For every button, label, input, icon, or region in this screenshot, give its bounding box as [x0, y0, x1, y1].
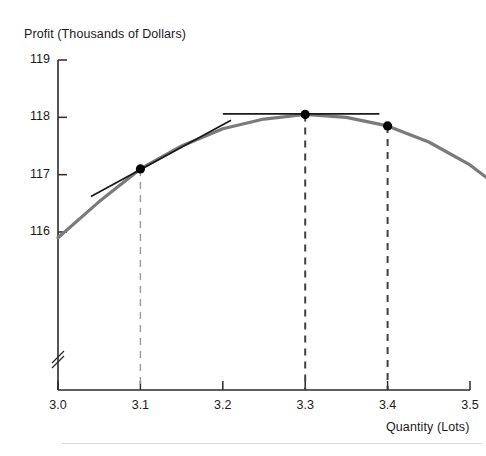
curve-group: [58, 114, 486, 237]
point-3-4: [383, 121, 392, 130]
profit-curve: [58, 114, 486, 237]
y-tick-label: 116: [20, 224, 50, 238]
axes-group: [52, 60, 470, 390]
x-tick-label: 3.1: [120, 398, 160, 412]
tangent-at-3-1: [91, 120, 231, 196]
chart-figure: Profit (Thousands of Dollars) Quantity (…: [0, 0, 486, 456]
x-tick-label: 3.5: [450, 398, 486, 412]
point-3-3: [301, 110, 310, 119]
figure-bottom-rule: [62, 443, 482, 444]
y-tick-marks: [58, 60, 67, 232]
y-tick-label: 119: [20, 52, 50, 66]
x-tick-label: 3.4: [368, 398, 408, 412]
y-tick-label: 118: [20, 109, 50, 123]
axis-break-icon: [52, 351, 64, 368]
droplines-group: [140, 114, 387, 390]
x-tick-label: 3.0: [38, 398, 78, 412]
point-3-1: [136, 164, 145, 173]
x-tick-label: 3.3: [285, 398, 325, 412]
x-tick-marks: [58, 381, 470, 390]
profit-curve-plot: [0, 0, 486, 456]
y-tick-label: 117: [20, 167, 50, 181]
x-tick-label: 3.2: [203, 398, 243, 412]
